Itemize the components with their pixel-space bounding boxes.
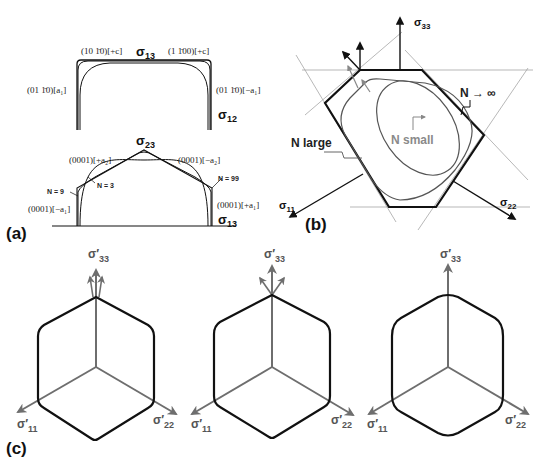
hex1-sigma-22-label: σ′22 [153, 413, 174, 430]
label-0001-minus-a1: (0001)[−a₁] [28, 204, 70, 214]
hex2-sigma-11-label: σ′11 [191, 417, 212, 434]
sigma-13-bottom-label: σ13 [218, 212, 237, 229]
label-0001-minus-a2: (0001)[−a₂] [178, 155, 220, 165]
label-n-infinity: N → ∞ [460, 86, 496, 100]
hex2-sigma-22-label: σ′22 [331, 413, 352, 430]
hex1-sigma-33-label: σ′33 [88, 247, 109, 264]
label-n-large: N large [291, 136, 332, 150]
panel-a-top-yield-surface [77, 60, 211, 130]
label-1-100-plus-c: (1 1̄00)[+c] [168, 46, 209, 56]
panel-c-label: (c) [6, 439, 27, 458]
hex3-sigma-33-label: σ′33 [440, 247, 461, 264]
sigma-11-axis-label: σ11 [279, 199, 296, 214]
sigma-22-axis-label: σ22 [500, 196, 517, 211]
label-0001-plus-a1: (0001)[+a₁] [217, 200, 259, 210]
sigma-13-top-label: σ13 [136, 44, 155, 61]
sigma-12-label: σ12 [218, 107, 237, 124]
sigma-33-axis-label: σ33 [414, 16, 431, 31]
panel-b-yield-loci [290, 18, 533, 230]
figure-canvas: (10 1̄0)[+c] (1 1̄00)[+c] σ13 (01 1̄0)[a… [0, 0, 547, 470]
hex3-sigma-11-label: σ′11 [367, 417, 388, 434]
sigma-23-label: σ23 [136, 133, 155, 150]
panel-b-label: (b) [305, 215, 327, 234]
panel-a-label: (a) [6, 224, 27, 243]
panel-c-hexagon-2 [192, 266, 353, 438]
label-0001-plus-a2: (0001)[+a₂] [69, 155, 111, 165]
label-n-small: N small [391, 133, 434, 147]
label-n-9: N = 9 [47, 188, 64, 195]
hex2-sigma-33-label: σ′33 [264, 247, 285, 264]
label-n-3: N = 3 [97, 182, 114, 189]
panel-c-hexagon-3 [369, 265, 528, 436]
hex1-sigma-11-label: σ′11 [17, 417, 38, 434]
label-10-10-plus-c: (10 1̄0)[+c] [81, 46, 122, 56]
label-01-10-a1: (01 1̄0)[a₁] [27, 85, 66, 95]
label-01-10-minus-a1: (01 1̄0)[−a₁] [216, 85, 260, 95]
hex3-sigma-22-label: σ′22 [505, 413, 526, 430]
label-n-99: N = 99 [218, 175, 239, 182]
